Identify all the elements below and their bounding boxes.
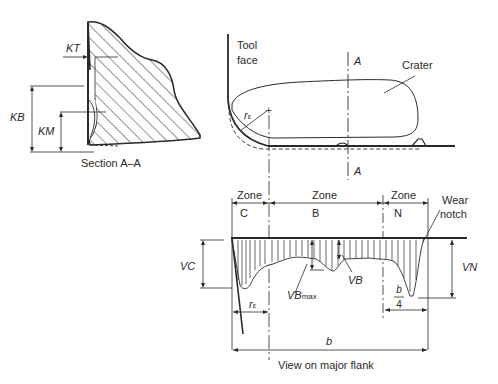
flank-caption: View on major flank (278, 360, 374, 371)
crater-outline (232, 80, 418, 138)
corner-radius-label: rε (244, 110, 251, 121)
zone-n-title: Zone (391, 190, 416, 201)
svg-text:+: + (265, 105, 273, 115)
zone-c-letter: C (240, 208, 248, 219)
wear-notch-label-1: Wear (442, 195, 468, 206)
zone-n-letter: N (394, 208, 402, 219)
width-b-label: b (326, 336, 332, 347)
vb-max-label: VBmax (287, 290, 317, 301)
section-mark-bottom: A (354, 166, 361, 177)
km-label: KM (38, 126, 55, 137)
kb-label: KB (10, 112, 25, 123)
tool-face-label-1: Tool (237, 40, 257, 51)
zone-b-title: Zone (312, 190, 337, 201)
b-over-4-numerator: b (393, 284, 405, 295)
section-a-a (30, 22, 200, 152)
kt-label: KT (66, 43, 80, 54)
zone-c-title: Zone (237, 190, 262, 201)
b-over-4-denominator: 4 (393, 299, 405, 310)
tool-wear-diagram: + (0, 0, 498, 384)
tool-face-label-2: face (237, 55, 258, 66)
section-mark-top: A (354, 56, 361, 67)
flank-corner-radius-label: rε (249, 299, 256, 310)
crater-label: Crater (402, 60, 433, 71)
vc-label: VC (180, 261, 195, 272)
tool-cross-section (88, 22, 200, 145)
section-caption: Section A–A (81, 158, 141, 169)
wear-notch-label-2: notch (440, 209, 467, 220)
zone-b-letter: B (312, 208, 319, 219)
vn-label: VN (462, 262, 477, 273)
vb-label: VB (348, 275, 363, 286)
